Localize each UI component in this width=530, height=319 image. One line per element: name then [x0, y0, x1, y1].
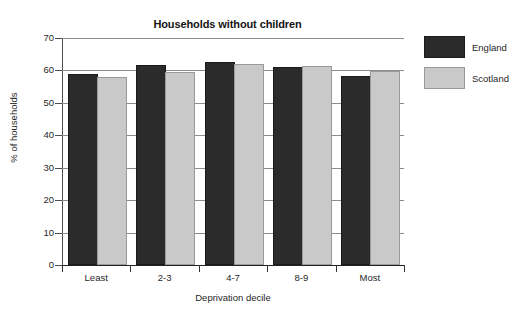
- bar-scotland-least: [97, 77, 127, 265]
- bar-england-most: [341, 76, 371, 265]
- x-tick: [336, 265, 337, 272]
- x-tick-label: 8-9: [266, 272, 336, 283]
- y-tick-30: [55, 168, 62, 169]
- x-tick-label: 4-7: [198, 272, 268, 283]
- legend-item-england[interactable]: England: [424, 36, 524, 58]
- bar-england-8-9: [273, 67, 303, 265]
- x-tick: [267, 265, 268, 272]
- bar-england-least: [68, 74, 98, 265]
- legend-label: Scotland: [472, 73, 509, 84]
- y-tick-label: 10: [32, 228, 54, 238]
- y-tick-50: [55, 103, 62, 104]
- y-axis-tick-labels: 010203040506070: [26, 0, 54, 319]
- y-tick-label: 60: [32, 65, 54, 75]
- legend-swatch-scotland: [424, 67, 465, 89]
- x-tick: [404, 265, 405, 272]
- y-tick-label: 20: [32, 195, 54, 205]
- legend-label: England: [472, 42, 507, 53]
- bar-scotland-2-3: [165, 72, 195, 265]
- bar-scotland-most: [370, 71, 400, 265]
- x-tick-label: Most: [335, 272, 405, 283]
- y-tick-10: [55, 233, 62, 234]
- x-tick-label: Least: [61, 272, 131, 283]
- y-tick-label: 50: [32, 98, 54, 108]
- bar-england-2-3: [136, 65, 166, 265]
- legend-item-scotland[interactable]: Scotland: [424, 67, 524, 89]
- chart-figure: Households without children % of househo…: [0, 0, 530, 319]
- gridline-0: [62, 265, 404, 266]
- bar-scotland-4-7: [234, 64, 264, 265]
- x-tick: [199, 265, 200, 272]
- y-tick-label: 40: [32, 130, 54, 140]
- bar-scotland-8-9: [302, 66, 332, 265]
- plot-area: [62, 38, 404, 265]
- x-tick: [62, 265, 63, 272]
- legend-swatch-england: [424, 36, 465, 58]
- bar-england-4-7: [205, 62, 235, 265]
- y-tick-0: [55, 265, 62, 266]
- x-tick-label: 2-3: [130, 272, 200, 283]
- y-tick-40: [55, 135, 62, 136]
- y-axis-title: % of households: [8, 73, 19, 183]
- y-tick-label: 0: [32, 260, 54, 270]
- y-tick-20: [55, 200, 62, 201]
- y-tick-label: 30: [32, 163, 54, 173]
- x-tick: [130, 265, 131, 272]
- y-tick-70: [55, 38, 62, 39]
- chart-title: Households without children: [50, 18, 405, 30]
- gridline-70: [62, 38, 404, 39]
- y-tick-label: 70: [32, 33, 54, 43]
- y-tick-60: [55, 70, 62, 71]
- chart-legend: EnglandScotland: [424, 36, 524, 98]
- x-axis-title: Deprivation decile: [62, 292, 404, 303]
